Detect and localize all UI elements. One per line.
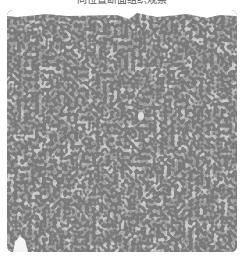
histology-micrograph	[7, 10, 237, 252]
figure-caption: 同位置断面组织观察	[0, 0, 243, 6]
vessel-lumen	[138, 112, 144, 120]
nuclei-layer	[7, 10, 237, 252]
micrograph-frame	[7, 10, 237, 252]
